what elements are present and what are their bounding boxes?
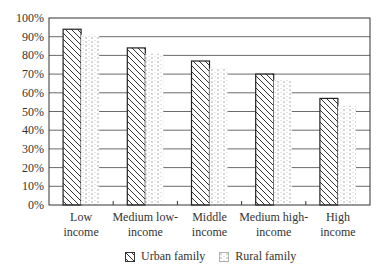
y-tick-label: 30% <box>22 142 44 156</box>
bar <box>127 48 145 205</box>
x-category-label: income <box>63 225 98 239</box>
hatch-swatch-icon <box>125 252 135 262</box>
y-tick-label: 40% <box>22 123 44 137</box>
x-category-label: income <box>192 225 227 239</box>
y-tick-label: 80% <box>22 48 44 62</box>
x-category-label: income <box>256 225 291 239</box>
x-category-label: Low <box>70 210 92 224</box>
legend-item-rural: Rural family <box>219 249 296 264</box>
bar-chart: 0%10%20%30%40%50%60%70%80%90%100% Lowinc… <box>0 0 388 245</box>
y-axis-ticks: 0%10%20%30%40%50%60%70%80%90%100% <box>16 11 44 212</box>
bar <box>210 68 228 205</box>
y-tick-label: 0% <box>28 198 44 212</box>
legend-label: Urban family <box>141 249 205 264</box>
bar <box>63 29 81 205</box>
y-tick-label: 60% <box>22 86 44 100</box>
x-category-label: income <box>320 225 355 239</box>
legend: Urban family Rural family <box>125 249 310 264</box>
bar <box>256 74 274 205</box>
y-tick-label: 90% <box>22 30 44 44</box>
y-tick-label: 100% <box>16 11 44 25</box>
dotted-swatch-icon <box>219 252 229 262</box>
bar <box>145 54 163 205</box>
y-tick-label: 70% <box>22 67 44 81</box>
bar <box>81 35 99 205</box>
y-tick-label: 10% <box>22 179 44 193</box>
bar <box>338 106 356 205</box>
x-category-label: Medium low- <box>112 210 178 224</box>
x-category-label: Middle <box>192 210 227 224</box>
y-tick-label: 20% <box>22 161 44 175</box>
x-category-label: income <box>128 225 163 239</box>
legend-item-urban: Urban family <box>125 249 205 264</box>
legend-label: Rural family <box>235 249 296 264</box>
x-category-label: Medium high- <box>239 210 308 224</box>
bar <box>320 98 338 205</box>
x-category-label: High <box>326 210 350 224</box>
y-tick-label: 50% <box>22 105 44 119</box>
x-axis-labels: LowincomeMedium low-incomeMiddleincomeMe… <box>63 210 355 239</box>
bar <box>274 80 292 205</box>
bar <box>192 61 210 205</box>
